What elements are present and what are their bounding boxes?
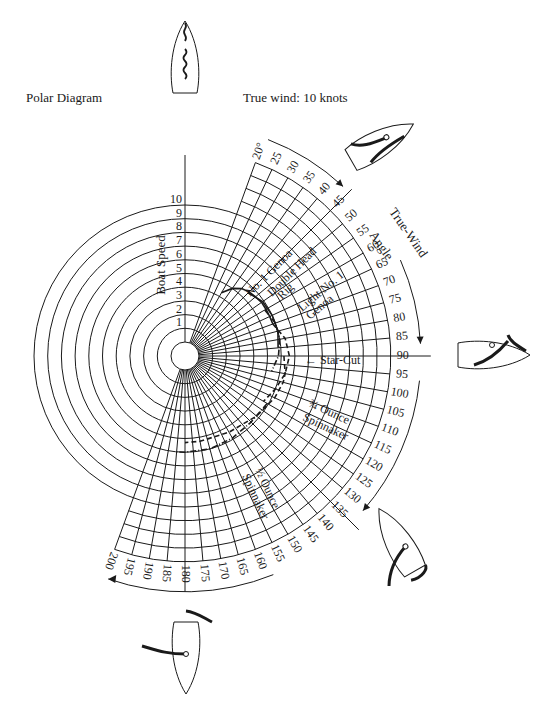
arrowhead-icon (417, 336, 424, 343)
boat-head-to-wind-icon (171, 21, 199, 93)
angle-tick-label: 95 (395, 366, 408, 381)
angle-tick-label: 25 (267, 150, 285, 167)
angle-tick-label: 165 (233, 556, 251, 577)
angle-tick-label: 125 (353, 469, 376, 491)
polar-grid (34, 155, 431, 592)
speed-tick-label: 5 (176, 261, 182, 275)
angle-tick-label: 180 (179, 565, 193, 583)
angle-tick-label: 120 (363, 453, 386, 474)
speed-tick-label: 9 (176, 206, 182, 220)
angle-tick-label: 140 (315, 511, 337, 534)
angle-tick-label: 85 (395, 328, 408, 343)
speed-tick-label: 8 (176, 219, 182, 233)
angle-spoke (187, 370, 220, 559)
angle-tick-label: 90 (397, 348, 409, 362)
angle-tick-label: 20° (249, 140, 268, 161)
angle-tick-label: 150 (284, 533, 305, 556)
angle-tick-label: 50 (342, 206, 360, 224)
angle-tick-label: 115 (372, 437, 394, 457)
arrowhead-icon (363, 503, 370, 511)
angle-tick-label: 195 (121, 556, 139, 577)
boat-running-icon (142, 611, 212, 694)
boat-speed-axis-label: Boat Speed (153, 235, 168, 295)
speed-tick-label: 6 (176, 247, 182, 261)
angle-tick-label: 40 (315, 179, 333, 197)
angle-tick-label: 100 (390, 384, 410, 401)
angle-tick-label: 175 (197, 563, 213, 582)
angle-tick-label: 190 (140, 561, 157, 581)
speed-tick-label: 10 (170, 192, 182, 206)
angle-tick-label: 200 (102, 550, 121, 572)
speed-tick-label: 7 (176, 233, 182, 247)
angle-spoke (132, 370, 182, 555)
angle-tick-label: 160 (251, 549, 270, 571)
angle-tick-label: 110 (379, 420, 400, 439)
angle-tick-label: 80 (392, 309, 406, 325)
angle-tick-label: 145 (300, 522, 322, 545)
speed-tick-label: 2 (176, 302, 182, 316)
polar-diagram: 20°2530354045505560657075808590951001051… (0, 0, 553, 710)
label-star-cut: ← Star-Cut (305, 353, 361, 367)
angle-tick-label: 155 (268, 542, 288, 564)
speed-tick-label: 1 (176, 315, 182, 329)
angle-tick-label: 170 (216, 560, 233, 580)
angle-spoke (149, 370, 182, 559)
angle-tick-label: 70 (381, 272, 397, 289)
center-circle (171, 342, 199, 370)
angle-tick-label: 105 (385, 402, 406, 420)
speed-tick-label: 4 (176, 274, 182, 288)
angle-spoke (199, 320, 388, 353)
speed-tick-label: 3 (176, 288, 182, 302)
angle-tick-label: 185 (160, 564, 176, 583)
boat-beam-reach-icon (458, 335, 530, 369)
angle-tick-label: 30 (284, 158, 302, 175)
angle-tick-label: 35 (300, 168, 318, 186)
arrowhead-icon (108, 575, 116, 583)
boat-close-hauled-icon (344, 112, 420, 172)
boat-broad-reach-icon (353, 502, 431, 593)
angle-tick-label: 75 (387, 290, 402, 307)
angle-tick-label: 45 (329, 192, 347, 210)
